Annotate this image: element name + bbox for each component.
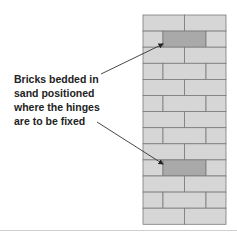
half-brick xyxy=(143,192,163,208)
brick-wall-diagram xyxy=(0,0,237,234)
bottom-divider xyxy=(0,230,237,231)
half-brick xyxy=(206,192,226,208)
half-brick xyxy=(206,63,226,79)
half-brick xyxy=(143,63,163,79)
brick xyxy=(163,63,206,79)
brick xyxy=(185,47,227,63)
brick xyxy=(185,15,227,31)
brick xyxy=(163,192,206,208)
brick xyxy=(143,208,185,224)
half-brick xyxy=(206,31,226,47)
half-brick xyxy=(143,96,163,112)
brick xyxy=(185,144,227,160)
brick xyxy=(163,96,206,112)
sand-bedded-brick xyxy=(163,31,206,47)
brick-courses xyxy=(143,15,226,224)
sand-bedded-brick xyxy=(163,160,206,176)
brick xyxy=(185,176,227,192)
half-brick xyxy=(206,96,226,112)
brick xyxy=(185,112,227,128)
brick xyxy=(185,208,227,224)
brick xyxy=(143,112,185,128)
half-brick xyxy=(206,160,226,176)
half-brick xyxy=(206,128,226,144)
half-brick xyxy=(143,31,163,47)
brick xyxy=(143,176,185,192)
brick xyxy=(143,15,185,31)
brick xyxy=(143,79,185,95)
brick xyxy=(143,144,185,160)
brick xyxy=(163,128,206,144)
half-brick xyxy=(143,128,163,144)
brick xyxy=(143,47,185,63)
brick xyxy=(185,79,227,95)
